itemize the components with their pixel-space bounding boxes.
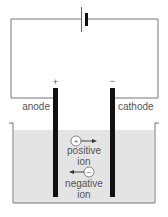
cathode-electrode <box>110 88 115 197</box>
battery-icon <box>82 7 89 32</box>
svg-text:−: − <box>87 168 92 177</box>
positive-ion-label-2: ion <box>77 156 90 167</box>
wire-right <box>88 19 158 98</box>
cathode-label: cathode <box>118 101 154 112</box>
negative-ion-label: negative <box>65 178 103 189</box>
anode-electrode <box>53 88 58 197</box>
anode-label: anode <box>22 101 50 112</box>
negative-ion-label-2: ion <box>77 189 90 200</box>
anode-sign: + <box>53 77 58 87</box>
cathode-sign: − <box>110 76 115 86</box>
electrolysis-diagram: + − anode cathode + positive ion − negat… <box>0 0 168 217</box>
wire-left <box>11 19 81 98</box>
positive-ion-label: positive <box>67 145 101 156</box>
